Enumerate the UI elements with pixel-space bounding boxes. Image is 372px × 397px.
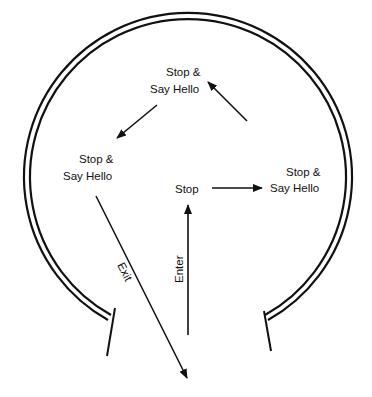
node-hello-left-line2: Say Hello: [63, 170, 112, 182]
wall-end-right: [264, 311, 271, 351]
node-stop-label: Stop: [175, 183, 199, 195]
arrow-top-to-left: [117, 105, 157, 138]
node-hello-top-line2: Say Hello: [150, 83, 199, 95]
node-hello-top-line1: Stop &: [166, 66, 201, 78]
enter-label: Enter: [173, 255, 185, 283]
node-hello-left-line1: Stop &: [79, 153, 114, 165]
node-hello-right-line1: Stop &: [286, 166, 321, 178]
node-hello-right-line2: Say Hello: [270, 182, 319, 194]
wall-end-left: [107, 308, 115, 356]
arrow-right-to-top: [208, 82, 247, 121]
exit-arrow: [96, 196, 187, 378]
diagram-canvas: Stop Stop & Say Hello Stop & Say Hello S…: [0, 0, 372, 397]
exit-label: Exit: [115, 260, 135, 283]
